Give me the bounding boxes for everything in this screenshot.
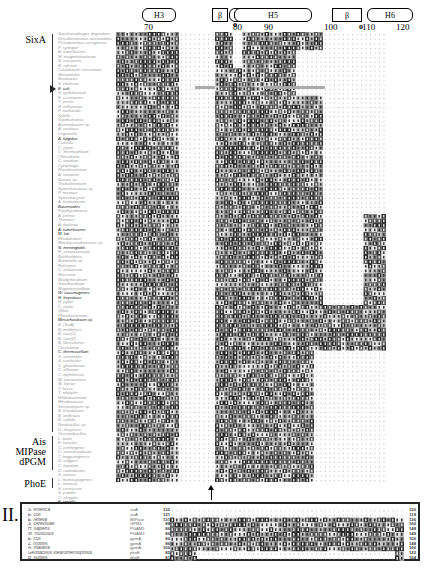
end-position: 104 [406, 556, 416, 561]
group-bracket [52, 34, 53, 432]
panel-2-species-list: S. entericaE. coliE. tenellaS. cerevisia… [28, 508, 128, 561]
highlight-bar [195, 86, 215, 89]
conservation-marker-icon: o [359, 22, 363, 31]
species-name: B. subtilis [28, 556, 128, 561]
selected-sequence-pointer-icon [50, 85, 56, 93]
group-label: PhoE [6, 478, 46, 489]
strand-element-icon: β [212, 8, 228, 22]
position-tick-label: 120 [396, 22, 410, 32]
group-label: SixA [6, 34, 46, 45]
position-tick-label: 100 [324, 22, 338, 32]
group-bracket [52, 446, 53, 456]
conservation-marker-icon: o [233, 20, 237, 29]
position-tick-label: 110 [362, 22, 375, 32]
helix-element-icon: H3 [142, 8, 176, 22]
panel-2-end-positions: 120119126160148149150148166122104 [406, 508, 416, 561]
group-label: dPGM [6, 456, 46, 467]
helix-element-icon: H6 [367, 8, 413, 22]
helix-element-icon: H5 [234, 8, 312, 22]
panel-2-alignment [170, 508, 404, 561]
highlight-bar [265, 86, 325, 89]
strand-element-icon: β [332, 8, 362, 22]
group-bracket [52, 478, 53, 488]
sequence-alignment-panel-1 [116, 32, 388, 482]
position-tick-label: 90 [264, 22, 273, 32]
panel-label: II. [2, 505, 19, 526]
panel-2-alignment-box: S. entericaE. coliE. tenellaS. cerevisia… [20, 502, 420, 561]
arrowhead-icon [208, 485, 214, 490]
panel-2-start-positions: 13213113188868686861008581 [160, 508, 170, 561]
position-tick-label: 70 [144, 22, 153, 32]
panel-2-gene-ids: sixAsixAMIPaseGPM1PGAM1PGAM2gpmAgpmAgpmA… [130, 508, 164, 561]
gene-id: phoE [130, 556, 164, 561]
group-bracket [52, 436, 53, 446]
start-position: 81 [160, 556, 170, 561]
group-bracket [52, 456, 53, 470]
